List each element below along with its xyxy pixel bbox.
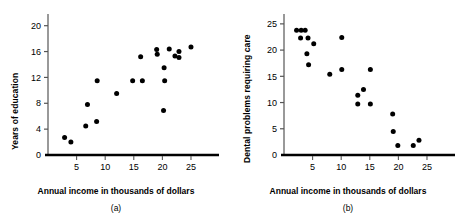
data-point <box>395 143 400 148</box>
data-point <box>416 138 421 143</box>
plot-area-b: 0510152025510152025 <box>250 4 462 170</box>
data-point <box>411 143 416 148</box>
data-point <box>140 78 145 83</box>
panel-caption-b: (b) <box>232 203 464 213</box>
y-tick-label: 0 <box>36 150 41 160</box>
data-point <box>114 91 119 96</box>
data-point <box>85 102 90 107</box>
data-point <box>327 72 332 77</box>
data-point <box>339 67 344 72</box>
data-point <box>390 112 395 117</box>
y-tick-label: 0 <box>272 150 277 160</box>
data-point <box>355 102 360 107</box>
data-point <box>368 67 373 72</box>
x-tick-label: 10 <box>100 162 110 170</box>
data-point <box>311 41 316 46</box>
scatter-svg-b: 0510152025510152025 <box>250 4 462 170</box>
data-point <box>294 28 299 33</box>
x-tick-label: 25 <box>186 162 196 170</box>
y-tick-label: 5 <box>272 124 277 134</box>
data-point <box>155 52 160 57</box>
data-point <box>391 129 396 134</box>
data-point <box>355 93 360 98</box>
data-point <box>130 78 135 83</box>
y-tick-label: 15 <box>267 72 277 82</box>
data-point <box>306 36 311 41</box>
scatter-svg-a: 048121620510152025 <box>18 4 226 170</box>
data-point <box>94 119 99 124</box>
y-tick-label: 4 <box>36 124 41 134</box>
y-tick-label: 10 <box>267 98 277 108</box>
y-tick-label: 8 <box>36 98 41 108</box>
x-tick-label: 25 <box>422 162 432 170</box>
y-tick-label: 12 <box>31 73 41 83</box>
scatter-plot-figure: Years of education 048121620510152025 An… <box>0 0 464 219</box>
plot-area-a: 048121620510152025 <box>18 4 226 170</box>
x-tick-label: 15 <box>129 162 139 170</box>
data-point <box>304 51 309 56</box>
data-point <box>368 102 373 107</box>
data-point <box>298 36 303 41</box>
data-point <box>154 47 159 52</box>
y-tick-label: 25 <box>267 19 277 29</box>
panel-a: Years of education 048121620510152025 An… <box>0 0 232 219</box>
data-point <box>167 46 172 51</box>
data-point <box>83 123 88 128</box>
panel-b: Dental problems requiring care 051015202… <box>232 0 464 219</box>
x-tick-label: 5 <box>310 162 315 170</box>
data-point <box>138 54 143 59</box>
data-point <box>162 78 167 83</box>
y-tick-label: 20 <box>31 21 41 31</box>
y-tick-label: 20 <box>267 45 277 55</box>
data-point <box>161 108 166 113</box>
x-axis-title-a: Annual income in thousands of dollars <box>0 186 232 196</box>
data-point <box>176 49 181 54</box>
panel-caption-a: (a) <box>0 203 232 213</box>
x-tick-label: 10 <box>336 162 346 170</box>
data-point <box>176 55 181 60</box>
x-tick-label: 20 <box>393 162 403 170</box>
data-point <box>303 28 308 33</box>
data-point <box>306 62 311 67</box>
x-tick-label: 15 <box>365 162 375 170</box>
data-point <box>62 135 67 140</box>
x-tick-label: 5 <box>74 162 79 170</box>
x-tick-label: 20 <box>157 162 167 170</box>
x-axis-title-b: Annual income in thousands of dollars <box>232 186 464 196</box>
data-point <box>95 78 100 83</box>
data-point <box>162 65 167 70</box>
data-point <box>361 87 366 92</box>
data-point <box>188 45 193 50</box>
data-point <box>339 35 344 40</box>
y-tick-label: 16 <box>31 47 41 57</box>
data-point <box>68 140 73 145</box>
